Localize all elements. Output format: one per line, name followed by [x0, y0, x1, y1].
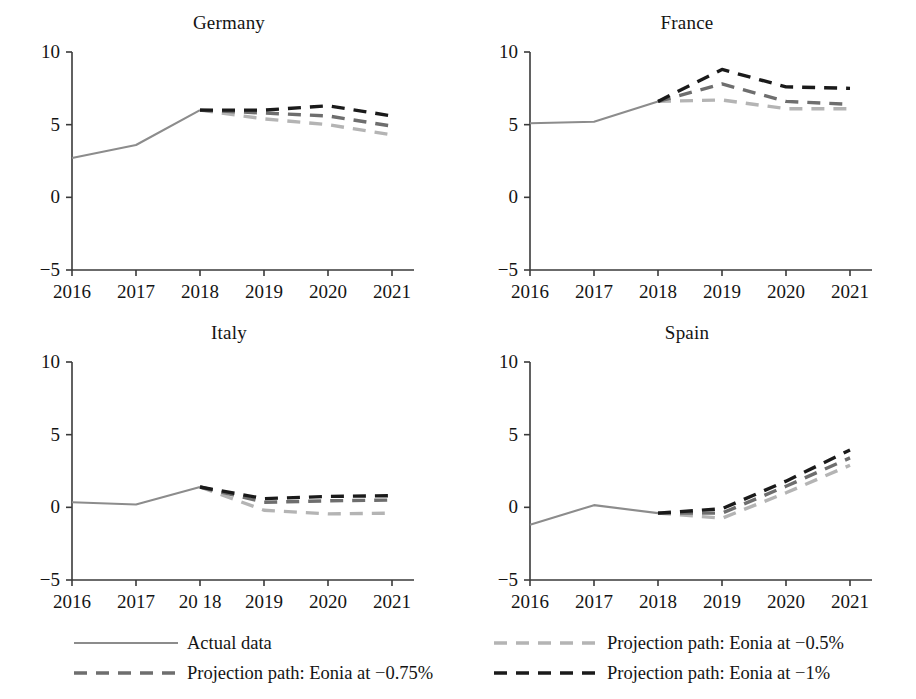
series-line-actual — [72, 110, 200, 158]
x-tick-label: 2020 — [296, 282, 360, 301]
x-tick-label: 2019 — [232, 282, 296, 301]
x-tick-label: 2020 — [754, 592, 818, 611]
legend-right: Projection path: Eonia at −0.5%Projectio… — [494, 628, 844, 688]
x-tick-label: 2020 — [754, 282, 818, 301]
plot-area-spain — [458, 310, 916, 620]
legend-item: Projection path: Eonia at −1% — [494, 658, 844, 688]
y-tick-label: −5 — [26, 260, 60, 279]
x-tick-label: 2017 — [562, 282, 626, 301]
legend-label: Projection path: Eonia at −1% — [607, 663, 830, 684]
y-tick-label: 5 — [484, 115, 518, 134]
chart-figure: Germany1050−5201620172018201920202021Fra… — [0, 0, 916, 699]
legend-label: Actual data — [187, 633, 272, 654]
y-tick-label: −5 — [484, 570, 518, 589]
y-tick-label: 10 — [484, 352, 518, 371]
legend-item: Projection path: Eonia at −0.5% — [494, 628, 844, 658]
y-tick-label: 5 — [26, 425, 60, 444]
x-tick-label: 2016 — [40, 282, 104, 301]
y-tick-label: −5 — [26, 570, 60, 589]
x-tick-label: 2016 — [498, 282, 562, 301]
x-tick-label: 2020 — [296, 592, 360, 611]
x-tick-label: 2021 — [360, 592, 424, 611]
legend-label: Projection path: Eonia at −0.75% — [187, 663, 433, 684]
y-tick-label: −5 — [484, 260, 518, 279]
plot-area-italy — [0, 310, 458, 620]
y-tick-label: 5 — [26, 115, 60, 134]
legend-label: Projection path: Eonia at −0.5% — [607, 633, 844, 654]
y-tick-label: 0 — [26, 497, 60, 516]
x-tick-label: 2018 — [626, 282, 690, 301]
series-line-projection-3 — [658, 450, 850, 513]
plot-area-germany — [0, 0, 458, 310]
panel-france: France1050−5201620172018201920202021 — [458, 0, 916, 310]
x-tick-label: 2017 — [104, 282, 168, 301]
panel-italy: Italy1050−52016201720 18201920202021 — [0, 310, 458, 620]
actual-data-key — [74, 636, 178, 650]
eonia-050-key — [494, 636, 598, 650]
x-tick-label: 2018 — [168, 282, 232, 301]
x-tick-label: 2019 — [690, 282, 754, 301]
x-tick-label: 2016 — [498, 592, 562, 611]
panel-spain: Spain1050−5201620172018201920202021 — [458, 310, 916, 620]
eonia-100-key — [494, 666, 598, 680]
x-tick-label: 2019 — [690, 592, 754, 611]
legend-item: Actual data — [74, 628, 433, 658]
y-tick-label: 10 — [484, 42, 518, 61]
eonia-075-key — [74, 666, 178, 680]
x-tick-label: 2017 — [104, 592, 168, 611]
y-tick-label: 0 — [26, 187, 60, 206]
y-tick-label: 10 — [26, 42, 60, 61]
y-tick-label: 0 — [484, 187, 518, 206]
x-tick-label: 2021 — [360, 282, 424, 301]
x-tick-label: 2018 — [626, 592, 690, 611]
series-line-actual — [530, 101, 658, 123]
series-line-actual — [72, 487, 200, 504]
y-tick-label: 10 — [26, 352, 60, 371]
plot-area-france — [458, 0, 916, 310]
y-tick-label: 5 — [484, 425, 518, 444]
y-tick-label: 0 — [484, 497, 518, 516]
x-tick-label: 2021 — [818, 592, 882, 611]
x-tick-label: 2017 — [562, 592, 626, 611]
legend-item: Projection path: Eonia at −0.75% — [74, 658, 433, 688]
series-line-actual — [530, 505, 658, 525]
series-line-projection-1 — [658, 100, 850, 109]
x-tick-label: 2019 — [232, 592, 296, 611]
x-tick-label: 2021 — [818, 282, 882, 301]
panel-germany: Germany1050−5201620172018201920202021 — [0, 0, 458, 310]
x-tick-label: 2016 — [40, 592, 104, 611]
legend-left: Actual dataProjection path: Eonia at −0.… — [74, 628, 433, 688]
series-line-projection-3 — [658, 69, 850, 101]
x-tick-label: 20 18 — [168, 592, 232, 611]
